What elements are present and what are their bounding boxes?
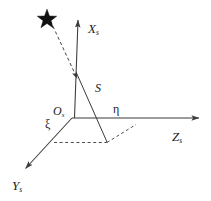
x-axis-symbol: X [88,21,96,36]
y-axis-label: Ys [12,179,22,194]
x-axis-line [75,20,79,118]
origin-label: Os [53,105,64,119]
s-vector-label: S [95,82,101,94]
s-vector-symbol: S [95,81,101,95]
eta-symbol: η [113,102,119,116]
y-axis-subscript: s [19,185,22,194]
figure-canvas [0,0,211,201]
origin-symbol: O [53,104,62,118]
origin-subscript: s [62,111,65,119]
x-axis-label: Xs [88,22,99,37]
s-vector-line [77,73,108,142]
coordinate-frame-figure: Xs Zs Ys Os S η ξ [0,0,211,201]
xi-symbol: ξ [45,117,50,131]
xi-label: ξ [45,118,50,130]
star-icon [37,9,56,28]
line-of-sight-dashed [51,21,78,79]
projection-diagonal-dashed [107,125,136,143]
z-axis-subscript: s [179,136,182,145]
x-axis-subscript: s [96,28,99,37]
z-axis-label: Zs [172,130,182,145]
eta-label: η [113,103,119,115]
